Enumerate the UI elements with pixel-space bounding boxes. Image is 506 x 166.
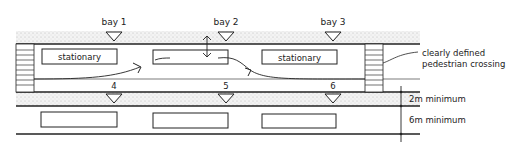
bay-4-label: 4 [111,81,116,91]
callout-line-1: clearly defined [422,48,485,58]
lower-vehicle-2 [153,113,228,128]
top-pavement [16,31,420,44]
vehicle-bay-1: stationary [42,49,117,64]
right-pedestrian-crossing [365,44,383,92]
dimension-2m-label: 2m minimum [409,94,466,104]
lower-vehicle-3 [262,114,336,128]
lower-vehicle-1 [41,112,117,127]
callout-line-2: pedestrian crossing [422,59,505,69]
vehicle-bay-3: stationary [262,50,337,64]
left-pedestrian-crossing [16,44,34,92]
vehicle-bay-3-label: stationary [278,53,321,63]
bus-bay-diagram: bay 1 bay 2 bay 3 stationary stationary [0,0,506,166]
bay-6-label: 6 [330,81,335,91]
bay-2-label: bay 2 [213,17,238,27]
bay-1-label: bay 1 [101,17,126,27]
crossing-callout: clearly defined pedestrian crossing [383,48,505,69]
vehicle-bay-1-label: stationary [58,52,101,62]
vertical-double-arrow-icon [203,36,211,57]
vehicle-bay-2 [153,50,228,64]
dimension-6m-label: 6m minimum [409,115,466,125]
bay-5-label: 5 [223,81,228,91]
bay-3-label: bay 3 [320,17,345,27]
